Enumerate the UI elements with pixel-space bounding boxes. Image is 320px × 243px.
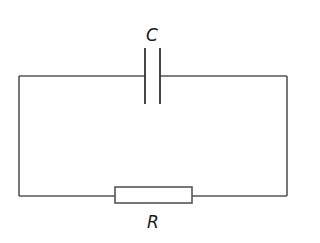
resistor-label: R	[147, 214, 159, 231]
capacitor-label: C	[146, 27, 158, 44]
capacitor-symbol	[145, 48, 160, 104]
resistor-symbol	[115, 187, 192, 203]
